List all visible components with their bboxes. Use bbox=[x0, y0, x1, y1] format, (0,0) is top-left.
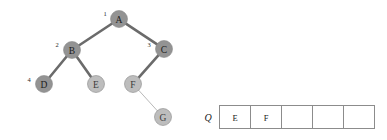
queue-cell-2[interactable] bbox=[282, 106, 313, 129]
queue-cell-value-1: F bbox=[264, 113, 269, 123]
queue-cell-border-3 bbox=[313, 106, 344, 129]
traversal-order-label-a: 1 bbox=[103, 10, 106, 17]
diagram-canvas: ABCDEFG 1234 QEF bbox=[0, 0, 387, 140]
tree-edges-layer bbox=[48, 22, 161, 111]
tree-node-a[interactable]: A bbox=[111, 11, 128, 28]
tree-node-c[interactable]: C bbox=[156, 41, 173, 58]
queue-cell-border-4 bbox=[344, 106, 375, 129]
queue-cell-4[interactable] bbox=[344, 106, 375, 129]
tree-edge-a-b bbox=[77, 22, 115, 47]
tree-edge-b-e bbox=[75, 54, 93, 79]
tree-edge-b-d bbox=[48, 54, 69, 80]
queue-cell-1[interactable]: F bbox=[251, 106, 282, 129]
tree-node-g[interactable]: G bbox=[155, 109, 172, 126]
traversal-order-label-d: 4 bbox=[27, 76, 31, 83]
traversal-order-label-b: 2 bbox=[55, 41, 58, 48]
queue-cell-0[interactable]: E bbox=[220, 106, 251, 129]
queue-cell-border-2 bbox=[282, 106, 313, 129]
node-label-b: B bbox=[69, 46, 75, 56]
queue-cell-3[interactable] bbox=[313, 106, 344, 129]
node-label-e: E bbox=[93, 80, 99, 90]
queue-cell-value-0: E bbox=[232, 113, 237, 123]
tree-edge-f-g bbox=[138, 90, 158, 112]
traversal-order-labels-layer: 1234 bbox=[27, 10, 150, 83]
node-label-c: C bbox=[161, 45, 167, 55]
tree-edge-c-f bbox=[137, 53, 161, 80]
traversal-order-label-c: 3 bbox=[147, 41, 150, 48]
tree-edge-a-c bbox=[124, 22, 160, 46]
node-label-g: G bbox=[160, 113, 167, 123]
tree-node-b[interactable]: B bbox=[64, 42, 81, 59]
tree-node-f[interactable]: F bbox=[125, 76, 142, 93]
binary-tree-with-queue-figure: ABCDEFG 1234 QEF bbox=[0, 0, 387, 140]
node-label-f: F bbox=[130, 80, 135, 90]
tree-node-d[interactable]: D bbox=[36, 76, 53, 93]
node-label-a: A bbox=[116, 15, 123, 25]
node-label-d: D bbox=[41, 80, 48, 90]
queue-layer: QEF bbox=[204, 106, 374, 129]
tree-node-e[interactable]: E bbox=[88, 76, 105, 93]
queue-label: Q bbox=[204, 112, 212, 123]
